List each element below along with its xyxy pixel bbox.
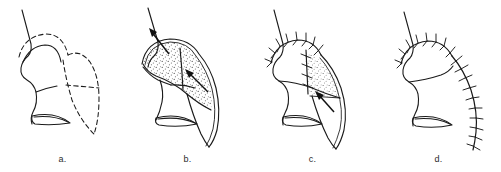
panel-a: a. xyxy=(0,0,125,172)
flap-stipple-fill xyxy=(143,42,212,110)
panel-d-drawing xyxy=(376,0,501,172)
nostril-inner-line xyxy=(158,118,195,123)
nostril-outline xyxy=(32,115,70,125)
nostril-inner-line xyxy=(285,118,320,123)
panel-a-drawing xyxy=(0,0,125,172)
cheek-contour-line xyxy=(36,86,57,92)
panel-b-label: b. xyxy=(125,154,250,164)
nostril-inner-line xyxy=(415,119,450,124)
alar-crease-arc xyxy=(23,45,61,62)
suture-marks-lateral xyxy=(451,56,483,150)
panel-d: d. xyxy=(376,0,501,172)
suture-marks-dorsal xyxy=(395,33,455,68)
panel-c: c. xyxy=(250,0,375,172)
cheek-contour-line xyxy=(409,66,453,82)
flap-dashed-crossbar xyxy=(66,85,99,88)
flap-stipple-fill xyxy=(305,52,340,98)
nostril-inner-line xyxy=(34,117,68,122)
nasal-profile-line xyxy=(273,10,289,125)
panel-a-label: a. xyxy=(0,154,125,164)
lower-profile-line xyxy=(156,80,163,120)
panel-c-label: c. xyxy=(250,154,375,164)
flap-distal-edge xyxy=(312,96,336,149)
panel-b: b. xyxy=(125,0,250,172)
nasal-profile-line xyxy=(403,12,419,126)
panel-c-drawing xyxy=(250,0,375,172)
panel-d-label: d. xyxy=(376,154,501,164)
figure-root: a. xyxy=(0,0,501,172)
panel-b-drawing xyxy=(125,0,250,172)
lateral-closure-line xyxy=(452,56,476,150)
nasal-profile-line xyxy=(21,10,37,124)
